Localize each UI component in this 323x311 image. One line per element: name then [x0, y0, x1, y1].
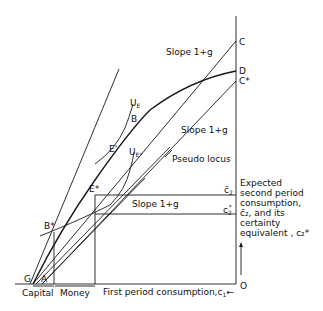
steep-line	[30, 69, 119, 284]
point-g: G	[24, 274, 31, 284]
money-label: Money	[60, 288, 91, 298]
y-axis-arrowhead	[239, 242, 243, 247]
y-axis-label: Expected second period consumption, c̄₂,…	[240, 178, 310, 238]
point-cstar: C*	[239, 76, 250, 86]
curve-uestar-label: UE*	[129, 147, 142, 158]
slope-label-top: Slope 1+g	[166, 47, 213, 57]
slope-label-mid: Slope 1+g	[181, 125, 228, 135]
c2bar-label: c̄2	[224, 185, 233, 196]
pseudo-locus-label: Pseudo locus	[172, 154, 231, 164]
consumption-diagram: C D C* B E' E* B* G A O UE UE* Slope 1+g…	[0, 0, 323, 311]
point-o: O	[240, 281, 247, 291]
x-axis-label: First period consumption,c1←	[103, 287, 234, 298]
point-d: D	[239, 66, 246, 76]
point-c: C	[239, 37, 245, 47]
point-estar: E*	[89, 184, 100, 194]
curve-ue-label: UE	[130, 98, 141, 109]
point-eprime: E'	[109, 144, 117, 154]
point-bstar: B*	[44, 221, 55, 231]
point-a: A	[41, 274, 48, 284]
slope-label-low: Slope 1+g	[132, 199, 179, 209]
c2star-label: c2*	[223, 203, 232, 216]
capital-label: Capital	[22, 288, 54, 298]
point-b: B	[131, 114, 137, 124]
